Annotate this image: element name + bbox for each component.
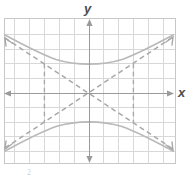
y-axis-label: y <box>84 2 91 15</box>
graph-canvas <box>0 0 193 179</box>
corner-artifact-mark: 2 <box>27 169 34 175</box>
x-axis-label: x <box>178 86 185 99</box>
hyperbola-graph-figure: y x 2 <box>0 0 193 179</box>
